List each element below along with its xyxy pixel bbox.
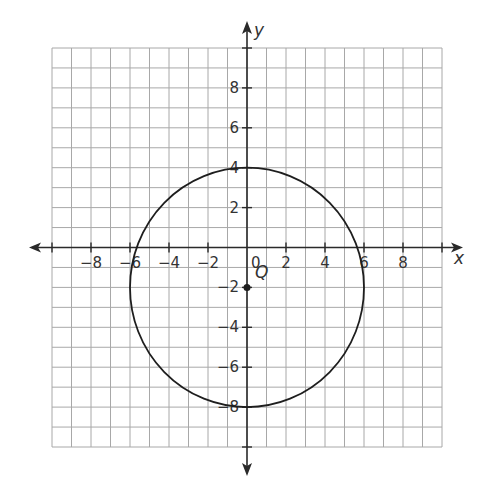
y-tick-label: −4 — [217, 318, 239, 336]
x-tick-label: −4 — [158, 254, 180, 272]
y-axis-label: y — [253, 20, 265, 40]
x-tick-label: 4 — [320, 254, 330, 272]
x-tick-label: 8 — [398, 254, 408, 272]
x-axis-label: x — [453, 248, 465, 268]
y-tick-label: −2 — [217, 278, 239, 296]
x-tick-label: −2 — [197, 254, 219, 272]
x-tick-label: −8 — [80, 254, 102, 272]
x-tick-label: −6 — [119, 254, 141, 272]
x-tick-label: 2 — [281, 254, 291, 272]
coordinate-plane: −8−6−4−224688642−2−4−6−8 Q x y 0 — [0, 0, 484, 495]
y-tick-label: 8 — [229, 79, 239, 97]
y-tick-label: 2 — [229, 199, 239, 217]
y-tick-label: −6 — [217, 358, 239, 376]
origin-label: 0 — [251, 254, 261, 272]
point-marker — [244, 284, 251, 291]
y-tick-label: 6 — [229, 119, 239, 137]
